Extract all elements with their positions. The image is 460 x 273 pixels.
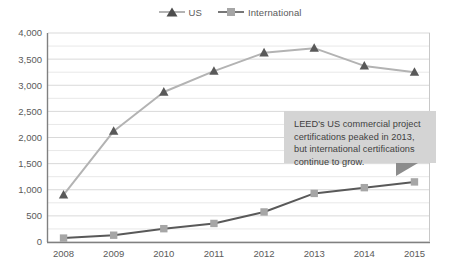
svg-text:0: 0 (37, 236, 42, 247)
svg-text:2,500: 2,500 (18, 106, 42, 117)
x-axis-tick-labels: 20082009201020112012201320142015 (53, 248, 425, 259)
annotation-text: LEED's US commercial project certificati… (294, 118, 427, 168)
svg-text:2014: 2014 (354, 248, 375, 259)
svg-text:1,000: 1,000 (18, 184, 42, 195)
annotation-callout: LEED's US commercial project certificati… (284, 111, 436, 163)
series-markers-international (60, 178, 418, 242)
svg-text:2011: 2011 (204, 248, 224, 259)
svg-text:2009: 2009 (103, 248, 124, 259)
y-axis-tick-labels: 05001,0001,5002,0002,5003,0003,5004,000 (18, 27, 42, 247)
svg-text:500: 500 (26, 210, 42, 221)
svg-text:2008: 2008 (53, 248, 74, 259)
svg-text:2,000: 2,000 (18, 132, 42, 143)
svg-text:1,500: 1,500 (18, 158, 42, 169)
callout-tail-icon (396, 163, 418, 176)
svg-text:3,500: 3,500 (18, 54, 42, 65)
svg-text:3,000: 3,000 (18, 80, 42, 91)
svg-text:2015: 2015 (404, 248, 425, 259)
chart-container: US International 05001,0001,5002,0002,50… (0, 0, 460, 273)
svg-text:2013: 2013 (304, 248, 325, 259)
svg-text:2012: 2012 (253, 248, 274, 259)
svg-text:2010: 2010 (153, 248, 174, 259)
svg-text:4,000: 4,000 (18, 27, 42, 38)
